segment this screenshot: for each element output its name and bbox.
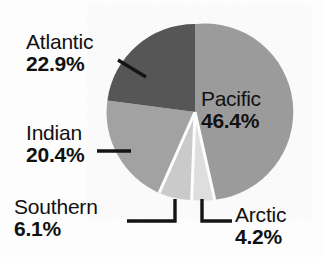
slice-label-indian-name: Indian bbox=[26, 122, 85, 144]
slice-label-pacific: Pacific 46.4% bbox=[201, 88, 261, 132]
slice-label-pacific-name: Pacific bbox=[201, 88, 261, 110]
pie-slice-atlantic bbox=[107, 24, 195, 112]
slice-label-arctic: Arctic 4.2% bbox=[235, 204, 286, 248]
pie-slices bbox=[107, 23, 294, 200]
slice-label-southern: Southern 6.1% bbox=[14, 196, 98, 240]
slice-label-atlantic-name: Atlantic bbox=[26, 31, 93, 53]
slice-label-atlantic: Atlantic 22.9% bbox=[26, 31, 93, 75]
slice-label-pacific-value: 46.4% bbox=[201, 110, 261, 132]
slice-label-southern-value: 6.1% bbox=[14, 218, 98, 240]
slice-label-arctic-value: 4.2% bbox=[235, 226, 286, 248]
leader-line-southern bbox=[127, 199, 175, 221]
slice-label-arctic-name: Arctic bbox=[235, 204, 286, 226]
slice-label-atlantic-value: 22.9% bbox=[26, 53, 93, 75]
pie-chart-figure: Pacific 46.4% Atlantic 22.9% Indian 20.4… bbox=[0, 0, 322, 257]
slice-label-indian-value: 20.4% bbox=[26, 144, 85, 166]
slice-label-indian: Indian 20.4% bbox=[26, 122, 85, 166]
leader-line-arctic bbox=[202, 199, 232, 221]
slice-label-southern-name: Southern bbox=[14, 196, 98, 218]
